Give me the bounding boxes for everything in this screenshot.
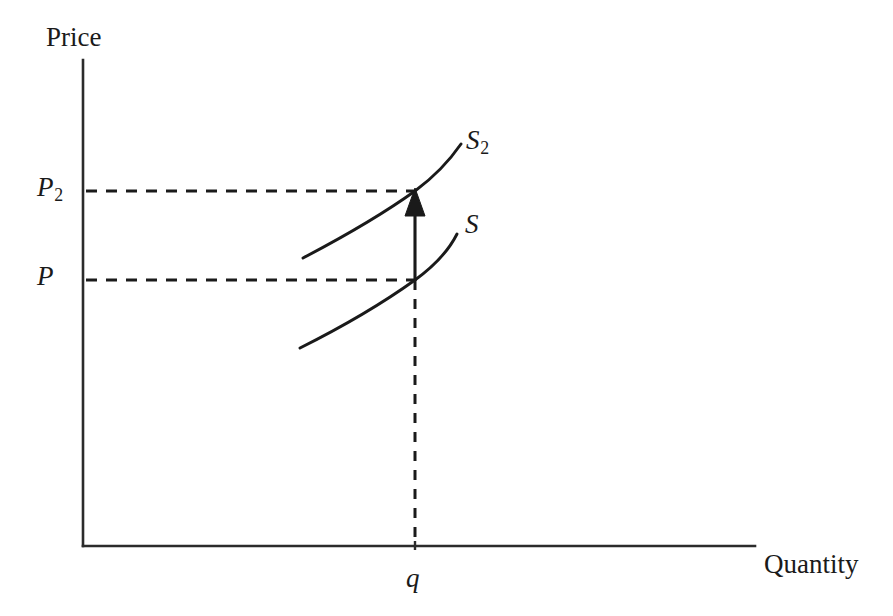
quantity-tick-label: q <box>406 565 420 592</box>
supply-curve-s2-label-base: S <box>466 125 480 155</box>
supply-curve-s2-label: S2 <box>466 127 489 158</box>
price-high-label-base: P <box>37 172 54 202</box>
y-axis-label: Price <box>46 24 101 51</box>
price-high-label: P2 <box>37 174 63 205</box>
supply-curve-s-label-base: S <box>465 209 479 239</box>
supply-curve-s-label: S <box>465 211 479 238</box>
x-axis-label: Quantity <box>764 551 859 578</box>
supply-curve-s2 <box>303 144 461 258</box>
supply-curve-s2-label-subscript: 2 <box>480 138 490 158</box>
supply-shift-figure: Price Quantity P2 P q S2 S <box>0 0 893 616</box>
price-high-label-subscript: 2 <box>54 185 64 205</box>
supply-curve-s <box>300 234 457 348</box>
price-low-label: P <box>37 263 54 290</box>
quantity-tick-label-base: q <box>406 563 420 593</box>
price-low-label-base: P <box>37 261 54 291</box>
plot-canvas <box>0 0 893 616</box>
